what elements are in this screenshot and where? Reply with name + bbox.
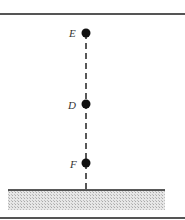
ground-hatch (8, 190, 165, 210)
point-e-label: E (69, 28, 76, 39)
point-e-dot (82, 29, 91, 38)
diagram-canvas (0, 0, 185, 220)
point-f-dot (82, 159, 91, 168)
point-d-dot (82, 100, 91, 109)
point-d-label: D (68, 100, 76, 111)
point-f-label: F (70, 159, 77, 170)
